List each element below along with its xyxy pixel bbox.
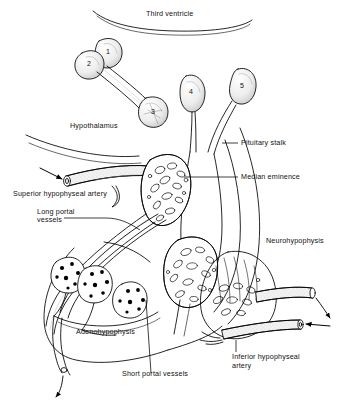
label-long-portal-vessels-line2: vessels [37, 216, 62, 225]
label-short-portal-vessels: Short portal vessels [122, 370, 188, 379]
label-third-ventricle: Third ventricle [146, 10, 193, 19]
label-median-eminence: Median eminence [241, 173, 300, 182]
nucleus-4 [180, 75, 205, 152]
hypothalamus-outline [26, 135, 141, 164]
nucleus-number-4: 4 [189, 88, 193, 95]
nucleus-number-1: 1 [106, 48, 110, 55]
label-adenohypophysis: Adenohypophysis [76, 328, 135, 337]
median-eminence-plexus [141, 154, 191, 225]
nucleus-number-3: 3 [151, 108, 155, 115]
label-inferior-hypophyseal-artery-line2: artery [232, 362, 251, 371]
neurohypophyseal-efferent-vein [256, 287, 330, 318]
superior-hypophyseal-artery [64, 165, 152, 207]
infundibular-plexus [164, 237, 218, 308]
adenohypophysis-acini [51, 257, 160, 335]
label-pituitary-stalk: Pituitary stalk [241, 139, 286, 148]
anatomical-figure: Third ventricle Hypothalamus Pituitary s… [0, 0, 338, 408]
acinus-b [78, 266, 113, 330]
inferior-hypophyseal-artery [200, 320, 330, 344]
nucleus-number-5: 5 [240, 82, 244, 89]
superior-artery-inflow-arrow [40, 168, 62, 179]
label-neurohypophysis: Neurohypophysis [266, 237, 324, 246]
leader-short-portal [146, 300, 151, 373]
label-superior-hypophyseal-artery: Superior hypophyseal artery [13, 190, 107, 199]
label-hypothalamus: Hypothalamus [70, 122, 118, 131]
neurohypophysis-plexus [208, 257, 259, 316]
acinus-c [113, 282, 148, 318]
nucleus-number-2: 2 [87, 60, 91, 67]
figure-linework [0, 0, 338, 408]
